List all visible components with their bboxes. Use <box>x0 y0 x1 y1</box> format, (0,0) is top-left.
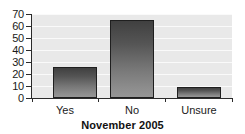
gridline-70 <box>32 14 232 15</box>
x-tick-mark-1 <box>98 98 99 102</box>
x-category-label-no: No <box>99 104 165 116</box>
x-axis-title: November 2005 <box>0 119 245 131</box>
x-tick-mark-2 <box>165 98 166 102</box>
bar-no <box>110 20 154 98</box>
y-tick-label-0: 0 <box>0 93 24 104</box>
y-tick-label-60: 60 <box>0 21 24 32</box>
plot-area <box>32 14 232 98</box>
bar-chart: 70 60 50 40 30 20 10 0 Yes No Unsure <box>0 0 245 134</box>
x-category-label-unsure: Unsure <box>166 104 232 116</box>
y-tick-label-10: 10 <box>0 81 24 92</box>
y-tick-label-40: 40 <box>0 45 24 56</box>
bar-unsure <box>177 87 221 98</box>
x-category-label-yes: Yes <box>32 104 98 116</box>
y-tick-label-70: 70 <box>0 9 24 20</box>
y-axis-tick-labels: 70 60 50 40 30 20 10 0 <box>0 9 24 97</box>
bar-yes <box>53 67 97 98</box>
x-tick-mark-end <box>232 98 233 102</box>
x-axis-line <box>31 98 233 99</box>
y-tick-label-30: 30 <box>0 57 24 68</box>
y-tick-label-50: 50 <box>0 33 24 44</box>
y-tick-label-20: 20 <box>0 69 24 80</box>
x-tick-mark-start <box>32 98 33 102</box>
